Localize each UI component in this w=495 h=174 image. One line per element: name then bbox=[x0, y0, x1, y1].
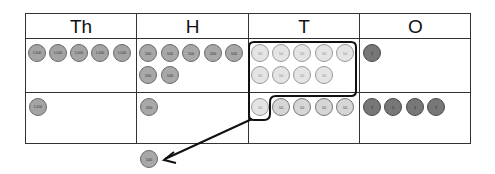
regroup-arrow bbox=[165, 119, 252, 159]
place-value-diagram: Th H T O 1,000 1,000 1,000 1,000 1,000 1… bbox=[0, 0, 495, 174]
grouping-overlay bbox=[0, 0, 495, 174]
ten-tens-group-outline bbox=[249, 42, 356, 120]
